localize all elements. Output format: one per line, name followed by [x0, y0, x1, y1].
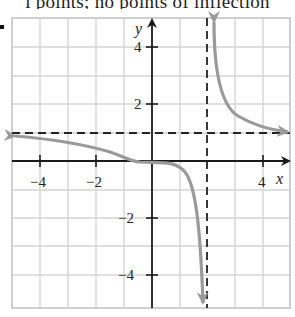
x-axis-label: x — [275, 170, 283, 187]
rational-function-graph: −4 −2 4 4 2 −2 −4 x y — [0, 0, 295, 317]
y-axis-label: y — [133, 20, 143, 38]
y-tick-label: 2 — [134, 96, 142, 112]
y-tick-label: 4 — [134, 39, 142, 55]
y-tick-label: −4 — [118, 267, 134, 283]
curve-right-branch — [214, 22, 288, 132]
x-tick-label: 4 — [258, 174, 266, 190]
x-tick-label: −4 — [30, 174, 46, 190]
y-tick-label: −2 — [118, 210, 134, 226]
x-tick-label: −2 — [86, 174, 102, 190]
